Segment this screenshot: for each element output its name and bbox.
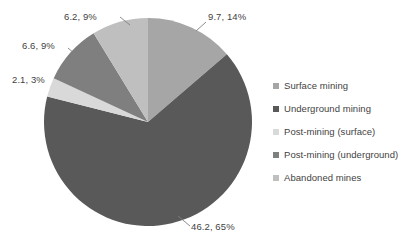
leader-line-top-right — [196, 22, 206, 31]
legend-item-underground-mining[interactable]: Underground mining — [273, 97, 411, 120]
legend-swatch-icon — [273, 83, 279, 89]
legend-item-label: Post-mining (underground) — [284, 149, 398, 160]
legend-swatch-icon — [273, 129, 279, 135]
legend-swatch-icon — [273, 175, 279, 181]
legend-item-label: Underground mining — [284, 103, 371, 114]
legend-item-abandoned-mines[interactable]: Abandoned mines — [273, 166, 411, 189]
data-label-underground-mining: 46.2, 65% — [191, 221, 235, 232]
data-label-post-mining-surface: 2.1, 3% — [12, 74, 45, 85]
legend-swatch-icon — [273, 106, 279, 112]
legend-item-label: Post-mining (surface) — [284, 126, 375, 137]
legend-item-label: Abandoned mines — [284, 172, 361, 183]
legend-item-label: Surface mining — [284, 80, 348, 91]
pie-chart-figure: 6.2, 9% 9.7, 14% 6.6, 9% 2.1, 3% 46.2, 6… — [0, 0, 411, 242]
data-label-surface-mining: 9.7, 14% — [208, 11, 246, 22]
pie-slice-group — [44, 18, 252, 226]
legend-item-post-mining-underground[interactable]: Post-mining (underground) — [273, 143, 411, 166]
legend-swatch-icon — [273, 152, 279, 158]
data-label-post-mining-underground: 6.6, 9% — [22, 40, 55, 51]
legend: Surface mining Underground mining Post-m… — [273, 74, 411, 189]
data-label-abandoned-mines: 6.2, 9% — [64, 11, 97, 22]
legend-item-surface-mining[interactable]: Surface mining — [273, 74, 411, 97]
legend-item-post-mining-surface[interactable]: Post-mining (surface) — [273, 120, 411, 143]
